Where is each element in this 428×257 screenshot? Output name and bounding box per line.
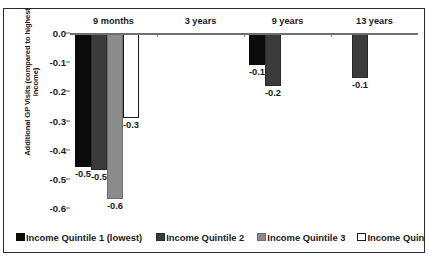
legend-color-swatch-icon [16, 233, 25, 242]
plot-area: 0.0-0.1-0.2-0.3-0.4-0.5-0.6 -0.5-0.5-0.6… [70, 33, 418, 208]
bar-value-label: -0.6 [107, 200, 123, 211]
bar-value-label: -0.3 [123, 119, 139, 130]
y-axis-tick-label: 0.0 [53, 28, 66, 39]
legend-item[interactable]: Income Quintile 4 [357, 232, 425, 243]
legend-item[interactable]: Income Quintile 2 [156, 232, 244, 243]
y-axis-tick-label: -0.3 [49, 115, 66, 126]
bar [123, 33, 139, 118]
y-axis-tick-label: -0.4 [49, 144, 66, 155]
chart-legend: Income Quintile 1 (lowest)Income Quintil… [16, 228, 416, 246]
y-axis-tick-label: -0.6 [49, 203, 66, 214]
legend-color-swatch-icon [156, 233, 165, 242]
y-axis-tick-mark [66, 120, 70, 121]
legend-item-label: Income Quintile 3 [267, 232, 345, 243]
category-label: 9 months [93, 16, 134, 26]
y-axis-tick-mark [66, 149, 70, 150]
bar-value-label: -0.5 [75, 168, 91, 179]
y-axis-tick-mark [66, 62, 70, 63]
bar [265, 33, 281, 86]
bar [75, 33, 91, 167]
legend-color-swatch-icon [257, 233, 266, 242]
legend-item-label: Income Quintile 1 (lowest) [26, 232, 142, 243]
bar-value-label: -0.1 [352, 79, 368, 90]
y-axis-title: Additional GP Visits (compared to highes… [21, 8, 43, 172]
chart-container: Additional GP Visits (compared to highes… [3, 8, 425, 253]
legend-item[interactable]: Income Quintile 1 (lowest) [16, 232, 142, 243]
y-axis-title-text: Additional GP Visits (compared to highes… [24, 8, 41, 156]
y-axis-tick-mark [66, 91, 70, 92]
y-axis-tick-mark [66, 178, 70, 179]
bar-value-label: -0.1 [249, 66, 265, 77]
category-label: 9 years [272, 16, 304, 26]
bar [107, 33, 123, 199]
legend-color-swatch-icon [357, 233, 366, 242]
legend-item-label: Income Quintile 2 [166, 232, 244, 243]
y-axis-tick-label: -0.2 [49, 86, 66, 97]
bar [249, 33, 265, 65]
bar-value-label: -0.2 [265, 87, 281, 98]
bar [352, 33, 368, 78]
zero-axis-line [70, 33, 418, 35]
bar [91, 33, 107, 170]
y-axis-tick-label: -0.5 [49, 173, 66, 184]
category-label: 13 years [356, 16, 393, 26]
bar-value-label: -0.5 [91, 171, 107, 182]
legend-item[interactable]: Income Quintile 3 [257, 232, 345, 243]
legend-item-label: Income Quintile 4 [367, 232, 425, 243]
category-label: 3 years [185, 16, 217, 26]
y-axis-tick-mark [66, 208, 70, 209]
y-axis-tick-label: -0.1 [49, 57, 66, 68]
